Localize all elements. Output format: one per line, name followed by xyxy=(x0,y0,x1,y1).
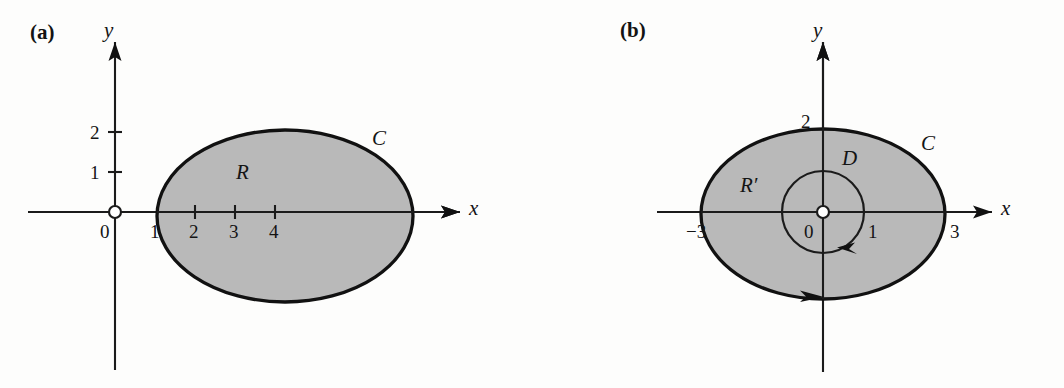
panel-b-graphic xyxy=(532,0,1064,388)
panel-b: (b) x xyxy=(532,0,1064,388)
panel-a-xtick-label-3: 3 xyxy=(229,222,239,241)
panel-b-inner-region-label: D xyxy=(842,148,857,169)
origin-marker xyxy=(817,206,829,218)
origin-marker xyxy=(109,206,121,218)
panel-a-y-axis-label: y xyxy=(104,20,113,41)
panel-a-graphic xyxy=(0,0,532,388)
panel-b-xtick-label-neg3: −3 xyxy=(686,222,706,241)
panel-b-y-axis-label: y xyxy=(813,20,822,41)
panel-a-x-axis-label: x xyxy=(469,198,478,219)
panel-b-x-axis-label: x xyxy=(1001,198,1010,219)
panel-a-origin-label: 0 xyxy=(100,222,110,241)
panel-b-region-label: R′ xyxy=(740,175,757,196)
panel-a-region-label: R xyxy=(236,162,249,183)
panel-a: (a) xyxy=(0,0,532,388)
panel-a-xtick-label-1: 1 xyxy=(150,222,160,241)
panel-b-curve-label: C xyxy=(921,133,935,154)
panel-a-curve-label: C xyxy=(372,128,386,149)
panel-a-xtick-label-4: 4 xyxy=(269,222,279,241)
panel-b-ytick-label-2: 2 xyxy=(801,112,811,131)
figure-root: (a) xyxy=(0,0,1064,388)
panel-a-ytick-label-2: 2 xyxy=(90,123,100,142)
panel-a-xtick-label-2: 2 xyxy=(189,222,199,241)
panel-a-ytick-label-1: 1 xyxy=(90,163,100,182)
panel-b-xtick-label-3: 3 xyxy=(950,222,960,241)
panel-b-origin-label: 0 xyxy=(804,222,814,241)
panel-b-xtick-label-1: 1 xyxy=(868,222,878,241)
